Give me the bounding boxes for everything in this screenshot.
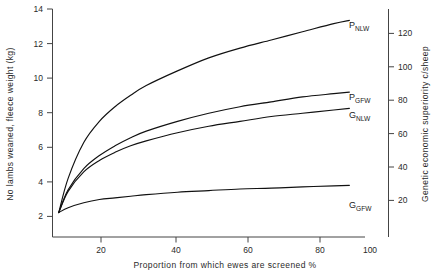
left-tick-label-4: 4: [38, 177, 43, 187]
left-tick-label-14: 14: [34, 4, 44, 14]
left-y-ticks: [47, 9, 53, 216]
series-label-g-gfw-main: G: [349, 200, 356, 210]
curve-p-nlw: [59, 20, 350, 212]
chart-figure: 14 12 10 8 6 4 2 No lambs weaned, fleece…: [0, 0, 435, 277]
series-label-p-nlw-sub: NLW: [355, 25, 370, 32]
x-axis: 20 40 60 80 100 Proportion from which ew…: [53, 237, 378, 270]
series-label-g-nlw: GNLW: [349, 110, 371, 122]
x-tick-label-60: 60: [243, 245, 253, 255]
right-tick-label-120: 120: [398, 28, 412, 38]
left-tick-label-8: 8: [38, 108, 43, 118]
series-label-g-gfw-sub: GFW: [356, 205, 372, 212]
x-tick-label-40: 40: [171, 245, 181, 255]
left-y-axis: 14 12 10 8 6 4 2 No lambs weaned, fleece…: [5, 4, 53, 237]
series-label-g-gfw: GGFW: [349, 200, 372, 212]
right-axis-title: Genetic economic superiority c/sheep: [420, 46, 430, 202]
x-ticks: [101, 237, 320, 243]
left-tick-label-10: 10: [34, 73, 44, 83]
x-tick-label-80: 80: [315, 245, 325, 255]
series-label-p-gfw: PGFW: [349, 92, 371, 104]
series-label-p-gfw-sub: GFW: [355, 97, 371, 104]
series-label-g-nlw-sub: NLW: [356, 115, 371, 122]
right-y-axis: 120 100 80 60 40 20 Genetic economic sup…: [389, 9, 431, 237]
right-tick-label-20: 20: [398, 195, 408, 205]
curve-p-gfw: [59, 92, 350, 213]
left-tick-label-2: 2: [38, 211, 43, 221]
left-tick-label-6: 6: [38, 142, 43, 152]
series-labels: PNLW PGFW GNLW GGFW: [349, 20, 372, 212]
left-axis-title: No lambs weaned, fleece weight (kg): [5, 47, 15, 200]
series-label-g-nlw-main: G: [349, 110, 356, 120]
right-tick-label-80: 80: [398, 95, 408, 105]
curve-g-nlw: [59, 108, 350, 212]
curve-g-gfw: [59, 185, 350, 212]
right-tick-label-60: 60: [398, 129, 408, 139]
right-tick-label-100: 100: [398, 62, 412, 72]
left-tick-label-12: 12: [34, 39, 44, 49]
right-tick-label-40: 40: [398, 162, 408, 172]
x-axis-title: Proportion from which ewes are screened …: [133, 260, 316, 270]
x-tick-label-100: 100: [363, 245, 377, 255]
right-y-ticks: [389, 33, 395, 200]
series-label-p-nlw: PNLW: [349, 20, 370, 32]
chart-svg: 14 12 10 8 6 4 2 No lambs weaned, fleece…: [0, 0, 435, 277]
curves-group: [59, 20, 350, 212]
x-tick-label-20: 20: [96, 245, 106, 255]
